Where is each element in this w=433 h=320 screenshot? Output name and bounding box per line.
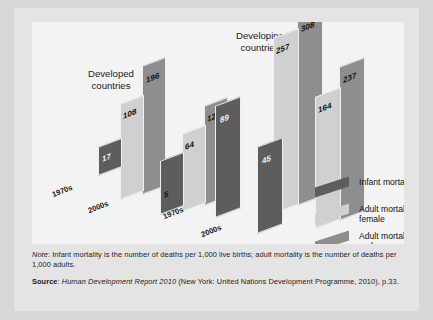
bar-face — [257, 137, 283, 234]
legend-swatch-infant-icon — [315, 176, 349, 197]
period-label-developing-2000s: 2000s — [200, 223, 223, 239]
period-label-developed-2000s: 2000s — [87, 199, 110, 215]
bar-developed-1970s-adult-female: 108 — [120, 104, 142, 198]
legend-swatch-adult-female-icon — [315, 203, 349, 224]
legend-label-adult-male: Adult mortality, male — [359, 231, 404, 244]
bar-developing-2000s-infant: 45 — [257, 147, 281, 232]
bar-developed-2000s-adult-female: 64 — [182, 134, 204, 210]
source-label: Source — [32, 277, 58, 286]
bar-developing-1970s-infant: 89 — [215, 106, 239, 216]
legend-item-infant-mortality: Infant mortality — [315, 178, 404, 205]
note-label: Note — [32, 250, 48, 259]
bar-face — [182, 125, 206, 212]
figure-caption: Note: Infant mortality is the number of … — [32, 250, 404, 312]
bar-developed-1970s-infant: 17 — [98, 147, 120, 174]
source-title: Human Development Report 2010 — [62, 277, 176, 286]
legend-label-infant: Infant mortality — [359, 177, 404, 187]
chart-legend: Infant mortality Adult mortality, female… — [315, 178, 404, 244]
legend-item-adult-male: Adult mortality, male — [315, 232, 404, 244]
period-label-developed-1970s: 1970s — [51, 183, 74, 199]
figure-source: Source: Human Development Report 2010 (N… — [32, 277, 404, 287]
figure-root: Developed countries Developing countries… — [0, 0, 433, 320]
chart-panel: Developed countries Developing countries… — [32, 22, 404, 244]
source-rest: (New York: United Nations Development Pr… — [176, 277, 399, 286]
bar-value-developed-2000s-infant: 5 — [164, 189, 168, 200]
legend-item-adult-female: Adult mortality, female — [315, 205, 404, 232]
note-text: Infant mortality is the number of deaths… — [32, 250, 397, 269]
figure-note: Note: Infant mortality is the number of … — [32, 250, 404, 269]
legend-label-adult-female: Adult mortality, female — [359, 204, 404, 225]
legend-swatch-adult-male-icon — [315, 230, 349, 244]
